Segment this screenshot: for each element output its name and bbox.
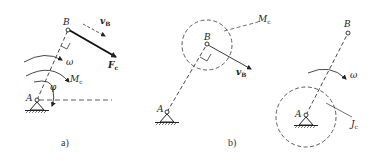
label-a: A (156, 104, 164, 114)
right-angle-marker (200, 54, 211, 61)
label-b: B (203, 32, 211, 42)
joint-b (346, 31, 350, 35)
panel-a: B A vB Fc ω Mc φ a) (24, 16, 118, 149)
ground-hatch (26, 111, 46, 113)
label-vb: vB (100, 16, 110, 27)
label-omega: ω (66, 57, 74, 67)
label-mc: Mc (257, 14, 271, 25)
caption-b: b) (228, 137, 236, 149)
mechanism-figure: B A vB Fc ω Mc φ a) B A vB Mc b) (0, 0, 378, 161)
ground-support-icon (30, 102, 44, 110)
velocity-arrow (208, 45, 251, 69)
leader-line (224, 22, 258, 31)
label-b: B (343, 19, 351, 29)
label-fc: Fc (107, 60, 118, 71)
panel-b: B A vB Mc b) (155, 14, 271, 149)
leader-line (326, 103, 352, 117)
crank-link (167, 44, 207, 112)
ground-support-icon (160, 114, 174, 122)
label-b: B (62, 17, 70, 27)
label-mc: Mc (69, 74, 83, 85)
panel-c: B A ω Jc (276, 19, 359, 147)
right-angle-marker (61, 43, 70, 49)
force-arrow (69, 30, 116, 57)
label-a: A (25, 93, 33, 103)
joint-b (66, 28, 70, 32)
crank-link (306, 33, 348, 115)
ground-hatch (295, 126, 315, 128)
ground-hatch (156, 123, 176, 125)
label-phi: φ (50, 82, 57, 92)
label-omega: ω (350, 70, 358, 80)
joint-b (205, 42, 209, 46)
caption-a: a) (61, 137, 69, 149)
label-vb: vB (236, 67, 246, 78)
label-jc: Jc (349, 119, 359, 130)
label-a: A (294, 109, 302, 119)
